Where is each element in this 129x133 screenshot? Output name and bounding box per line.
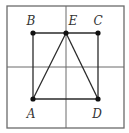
- point-B: [30, 30, 35, 35]
- point-E: [63, 30, 68, 35]
- label-E: E: [68, 14, 78, 28]
- geometry-diagram: ABCDE: [0, 0, 129, 133]
- label-A: A: [26, 107, 36, 121]
- point-D: [95, 96, 100, 101]
- segment-ED: [66, 33, 98, 99]
- point-A: [30, 96, 35, 101]
- point-C: [95, 30, 100, 35]
- label-B: B: [26, 14, 36, 28]
- segment-AE: [33, 33, 66, 99]
- label-D: D: [91, 107, 102, 121]
- label-C: C: [93, 14, 102, 28]
